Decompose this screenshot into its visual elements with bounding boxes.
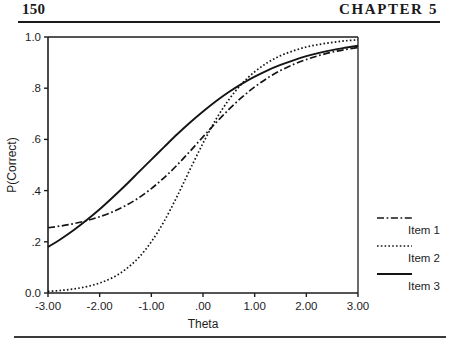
curve-item-1 [48,48,358,228]
y-tick-label: .6 [31,133,41,145]
y-axis-title: P(Correct) [5,137,19,192]
x-axis-ticks: -3.00-2.00-1.00.001.002.003.00 [35,293,369,312]
y-tick-label: .2 [31,236,41,248]
chapter-title: CHAPTER 5 [339,1,438,18]
x-tick-label: 2.00 [295,300,317,312]
y-axis-ticks: 0.0.2.4.6.81.0 [25,31,48,299]
x-tick-label: 3.00 [347,300,369,312]
chart-canvas: 0.0.2.4.6.81.0 -3.00-2.00-1.00.001.002.0… [0,22,456,336]
y-tick-label: .4 [31,185,41,197]
x-tick-label: 1.00 [243,300,265,312]
curve-group [48,40,358,292]
curve-item-3 [48,46,358,247]
plot-axes [48,37,358,293]
x-tick-label: -3.00 [35,300,61,312]
y-tick-label: .8 [31,82,41,94]
item-characteristic-curve-chart: 0.0.2.4.6.81.0 -3.00-2.00-1.00.001.002.0… [0,22,456,336]
x-tick-label: -2.00 [87,300,113,312]
legend-label-item-1: Item 1 [408,224,440,236]
x-tick-label: .00 [195,300,211,312]
y-tick-label: 0.0 [25,287,41,299]
footer-divider [14,336,446,338]
legend-label-item-2: Item 2 [408,252,440,264]
page-header: 150 CHAPTER 5 [0,0,456,24]
page-number: 150 [22,1,45,18]
chart-legend: Item 1Item 2Item 3 [377,218,440,292]
x-axis-title: Theta [188,317,219,331]
y-tick-label: 1.0 [25,31,41,43]
x-tick-label: -1.00 [138,300,164,312]
legend-label-item-3: Item 3 [408,280,440,292]
curve-item-2 [48,40,358,292]
